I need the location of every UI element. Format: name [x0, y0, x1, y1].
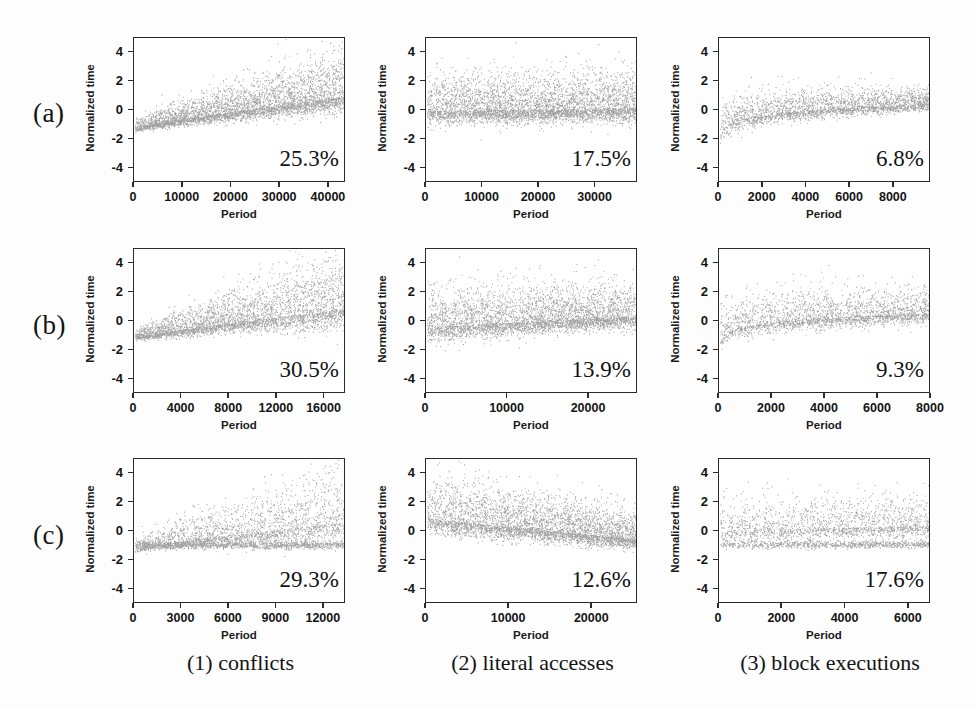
- ytick-label: -4: [387, 160, 415, 175]
- ytick-label: 4: [95, 44, 123, 59]
- xtick-label: 10000: [476, 611, 540, 625]
- xtick-mark: [907, 603, 909, 608]
- y-axis-label-b2: Normalized time: [376, 254, 388, 384]
- ytick-mark: [713, 588, 718, 590]
- xtick-label: 0: [393, 611, 457, 625]
- ytick-label: 2: [387, 284, 415, 299]
- row-label-b: (b): [33, 310, 66, 341]
- xtick-mark: [481, 182, 483, 187]
- xtick-mark: [132, 182, 134, 187]
- ytick-mark: [420, 501, 425, 503]
- ytick-mark: [713, 559, 718, 561]
- ytick-mark: [128, 472, 133, 474]
- ytick-label: 4: [387, 44, 415, 59]
- xtick-mark: [876, 393, 878, 398]
- xtick-label: 0: [393, 190, 457, 204]
- ytick-label: -4: [95, 581, 123, 596]
- ytick-mark: [128, 501, 133, 503]
- ytick-mark: [128, 51, 133, 53]
- xtick-label: 20000: [559, 611, 623, 625]
- xtick-mark: [537, 182, 539, 187]
- ytick-mark: [420, 109, 425, 111]
- ytick-label: 0: [387, 523, 415, 538]
- xtick-mark: [594, 182, 596, 187]
- x-axis-label-c1: Period: [133, 629, 345, 641]
- xtick-label: 10000: [475, 401, 539, 415]
- ytick-mark: [128, 291, 133, 293]
- ytick-label: 4: [95, 255, 123, 270]
- xtick-label: 10000: [450, 190, 514, 204]
- ytick-label: 2: [95, 73, 123, 88]
- ytick-mark: [713, 167, 718, 169]
- ytick-mark: [713, 501, 718, 503]
- ytick-mark: [713, 138, 718, 140]
- ytick-mark: [420, 588, 425, 590]
- ytick-label: 2: [387, 73, 415, 88]
- ytick-label: -2: [95, 131, 123, 146]
- xtick-mark: [230, 182, 232, 187]
- ytick-mark: [128, 138, 133, 140]
- xtick-label: 4000: [813, 611, 877, 625]
- ytick-label: -4: [680, 581, 708, 596]
- xtick-label: 0: [393, 401, 457, 415]
- xtick-mark: [823, 393, 825, 398]
- ytick-label: 2: [95, 494, 123, 509]
- xtick-label: 20000: [506, 190, 570, 204]
- xtick-mark: [227, 603, 229, 608]
- x-axis-label-a2: Period: [425, 208, 637, 220]
- xtick-label: 6000: [876, 611, 940, 625]
- ytick-label: 4: [680, 44, 708, 59]
- xtick-mark: [132, 603, 134, 608]
- percent-annotation-c3: 17.6%: [826, 567, 924, 593]
- percent-annotation-a1: 25.3%: [241, 146, 339, 172]
- y-axis-label-b1: Normalized time: [84, 254, 96, 384]
- xtick-mark: [275, 603, 277, 608]
- row-label-c: (c): [33, 520, 64, 551]
- x-axis-label-a3: Period: [718, 208, 930, 220]
- ytick-mark: [128, 349, 133, 351]
- ytick-mark: [420, 378, 425, 380]
- xtick-label: 2000: [749, 611, 813, 625]
- ytick-mark: [128, 167, 133, 169]
- xtick-label: 8000: [861, 190, 925, 204]
- y-axis-label-a3: Normalized time: [669, 43, 681, 173]
- x-axis-label-c3: Period: [718, 629, 930, 641]
- xtick-mark: [278, 182, 280, 187]
- ytick-mark: [128, 109, 133, 111]
- ytick-label: -4: [680, 160, 708, 175]
- xtick-mark: [848, 182, 850, 187]
- ytick-label: 4: [387, 465, 415, 480]
- ytick-label: -2: [680, 342, 708, 357]
- ytick-mark: [713, 80, 718, 82]
- ytick-label: 2: [680, 494, 708, 509]
- xtick-mark: [892, 182, 894, 187]
- xtick-label: 16000: [292, 401, 356, 415]
- ytick-label: 0: [387, 102, 415, 117]
- xtick-mark: [180, 393, 182, 398]
- ytick-label: 2: [387, 494, 415, 509]
- xtick-mark: [761, 182, 763, 187]
- y-axis-label-b3: Normalized time: [669, 254, 681, 384]
- ytick-mark: [128, 530, 133, 532]
- xtick-mark: [590, 603, 592, 608]
- ytick-label: -4: [387, 371, 415, 386]
- ytick-mark: [128, 320, 133, 322]
- ytick-mark: [713, 472, 718, 474]
- ytick-mark: [420, 559, 425, 561]
- percent-annotation-c2: 12.6%: [533, 567, 631, 593]
- ytick-label: -2: [387, 552, 415, 567]
- ytick-label: 0: [95, 523, 123, 538]
- xtick-mark: [327, 182, 329, 187]
- xtick-mark: [770, 393, 772, 398]
- ytick-label: -4: [95, 371, 123, 386]
- ytick-mark: [713, 320, 718, 322]
- column-caption-conflicts: (1) conflicts: [133, 650, 348, 676]
- ytick-label: 0: [680, 102, 708, 117]
- ytick-mark: [128, 588, 133, 590]
- ytick-mark: [420, 472, 425, 474]
- xtick-mark: [929, 393, 931, 398]
- xtick-mark: [844, 603, 846, 608]
- percent-annotation-b3: 9.3%: [826, 357, 924, 383]
- percent-annotation-b2: 13.9%: [533, 357, 631, 383]
- ytick-label: 2: [95, 284, 123, 299]
